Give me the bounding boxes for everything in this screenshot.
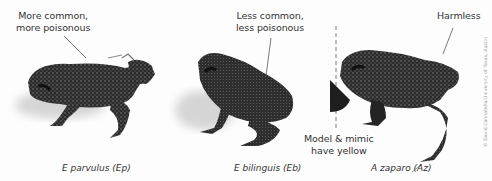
annotation-ep-line-2: more poisonous: [16, 22, 90, 34]
annotation-eb: Less common, less poisonous: [236, 10, 304, 34]
frog-mimicry-figure: More common, more poisonous Less common,…: [0, 0, 492, 181]
annotation-az: Harmless: [437, 10, 481, 22]
caption-a-zaparo: A zaparo (Az): [371, 163, 431, 173]
model-mimic-note-line-2: have yellow: [304, 145, 374, 157]
leader-line-eb: [266, 38, 271, 76]
leader-line-az: [443, 28, 453, 54]
model-mimic-note-line-1: Model & mimic: [304, 133, 374, 145]
annotation-ep: More common, more poisonous: [16, 10, 90, 34]
annotation-eb-line-1: Less common,: [236, 10, 304, 22]
annotation-ep-line-1: More common,: [16, 10, 90, 22]
caption-e-parvulus: E parvulus (Ep): [62, 163, 131, 173]
photo-credit: © David Cannatella/University of Texas, …: [480, 8, 490, 176]
photo-credit-text: © David Cannatella/University of Texas, …: [483, 37, 488, 147]
model-mimic-note: Model & mimic have yellow: [304, 133, 374, 157]
frog-e-bilinguis-photo: [175, 53, 293, 146]
caption-e-bilinguis: E bilinguis (Eb): [234, 163, 301, 173]
annotation-eb-line-2: less poisonous: [236, 22, 304, 34]
leader-line-ep: [64, 36, 86, 58]
annotation-az-line-1: Harmless: [437, 10, 481, 22]
frog-e-parvulus-photo: [15, 54, 155, 138]
